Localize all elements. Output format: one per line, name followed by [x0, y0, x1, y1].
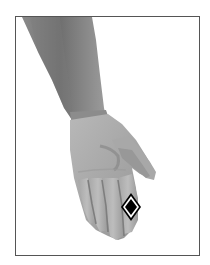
hand-illustration	[0, 0, 210, 265]
